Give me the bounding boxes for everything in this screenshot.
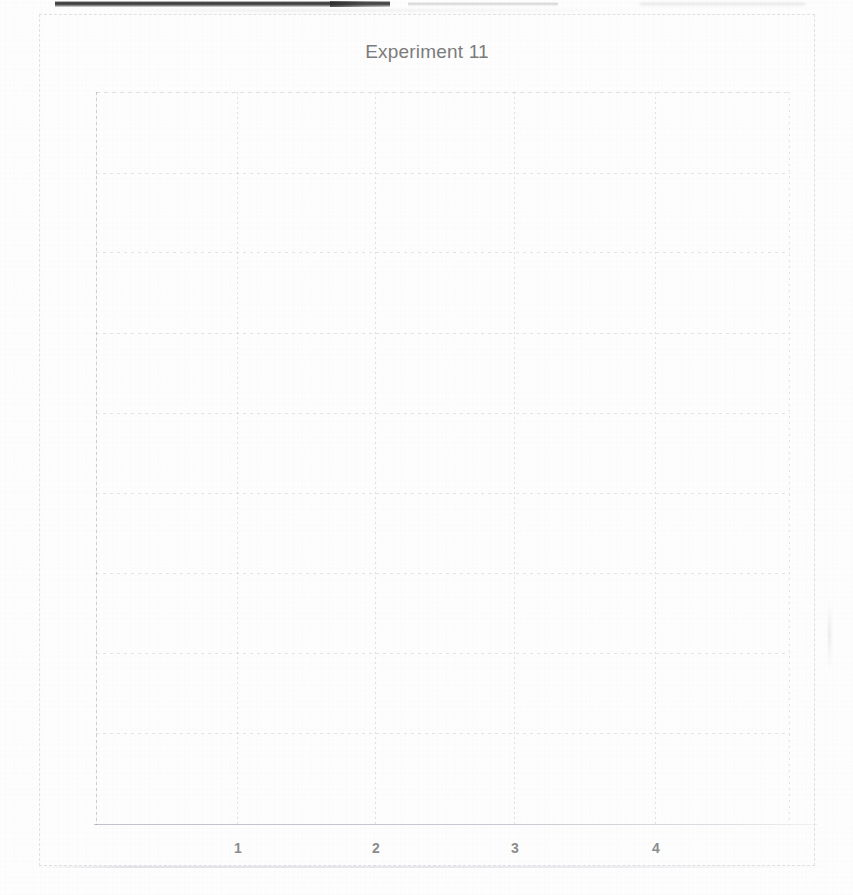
top-scan-smudge <box>55 1 390 7</box>
bottom-scan-line <box>34 866 824 868</box>
gridline-horizontal <box>96 173 790 174</box>
top-scan-wisp <box>100 9 660 12</box>
top-scan-smudge-third <box>640 2 805 6</box>
x-axis-line <box>94 824 818 825</box>
gridline-horizontal <box>96 333 790 334</box>
x-tick-label-2: 2 <box>356 838 396 858</box>
gridline-horizontal <box>96 252 790 253</box>
gridline-vertical <box>655 92 656 825</box>
x-tick-label-3: 3 <box>495 838 535 858</box>
gridline-horizontal <box>96 733 790 734</box>
gridline-horizontal <box>96 493 790 494</box>
figure-page: Experiment 11 1 2 3 4 <box>0 0 853 895</box>
top-scan-smudge-second <box>408 2 558 6</box>
plot-area <box>96 92 790 825</box>
plot-top-spine <box>96 92 790 93</box>
gridline-vertical <box>237 92 238 825</box>
gridline-horizontal <box>96 653 790 654</box>
x-tick-label-4: 4 <box>636 838 676 858</box>
gridline-vertical <box>514 92 515 825</box>
gridline-horizontal <box>96 573 790 574</box>
x-tick-label-1: 1 <box>218 838 258 858</box>
top-scan-smudge-fade <box>330 1 390 7</box>
plot-left-spine <box>96 92 97 825</box>
right-edge-wisp <box>828 600 831 670</box>
page-title: Experiment 11 <box>39 41 815 63</box>
gridline-vertical <box>375 92 376 825</box>
plot-right-spine <box>789 92 790 825</box>
gridline-horizontal <box>96 413 790 414</box>
x-axis-tick-labels: 1 2 3 4 <box>0 838 853 862</box>
